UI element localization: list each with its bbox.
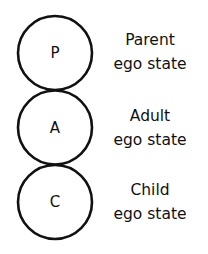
adult-subtitle: ego state — [100, 128, 200, 152]
adult-letter: A — [50, 119, 61, 137]
child-letter: C — [50, 193, 60, 211]
child-label: Child ego state — [100, 178, 200, 226]
parent-name: Parent — [100, 28, 200, 52]
parent-label: Parent ego state — [100, 28, 200, 76]
adult-label: Adult ego state — [100, 104, 200, 152]
parent-letter: P — [50, 44, 59, 62]
child-subtitle: ego state — [100, 202, 200, 226]
parent-subtitle: ego state — [100, 52, 200, 76]
child-name: Child — [100, 178, 200, 202]
adult-name: Adult — [100, 104, 200, 128]
